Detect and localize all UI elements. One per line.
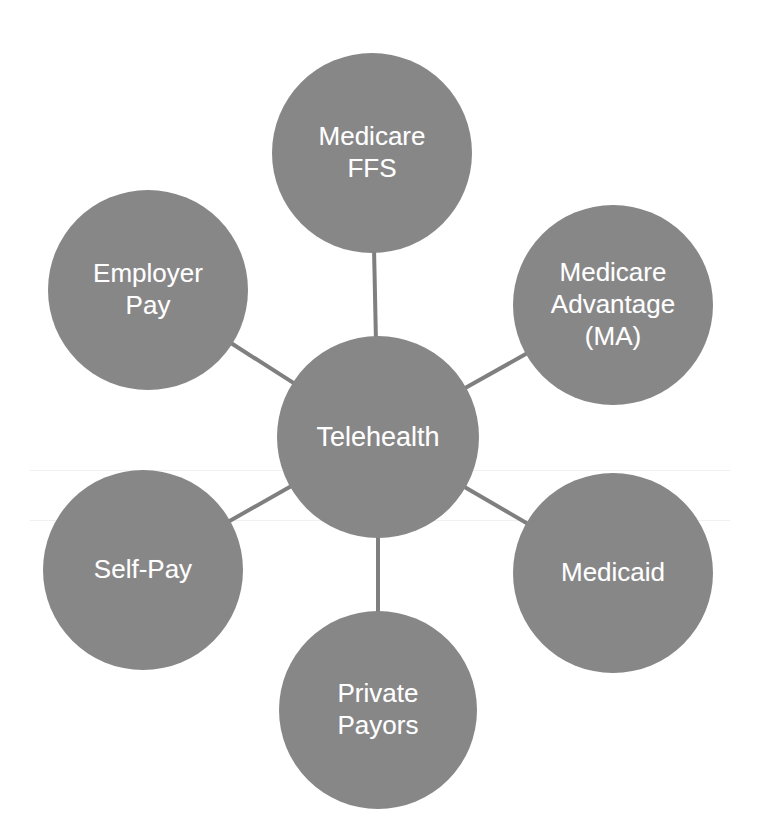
- node-medicare-advantage-label: Medicare Advantage (MA): [541, 257, 685, 352]
- node-medicare-ffs-label: Medicare FFS: [309, 121, 436, 184]
- node-employer-pay-label: Employer Pay: [83, 258, 213, 321]
- node-private-payors-label: Private Payors: [328, 678, 429, 741]
- node-self-pay-label: Self-Pay: [84, 554, 202, 586]
- connector-telehealth-to-self-pay: [228, 486, 292, 522]
- node-medicare-advantage[interactable]: Medicare Advantage (MA): [513, 205, 713, 405]
- node-telehealth[interactable]: Telehealth: [277, 336, 479, 538]
- node-medicaid[interactable]: Medicaid: [513, 473, 713, 673]
- node-telehealth-label: Telehealth: [306, 421, 449, 454]
- connector-telehealth-to-employer-pay: [231, 343, 295, 384]
- node-employer-pay[interactable]: Employer Pay: [48, 190, 248, 390]
- node-self-pay[interactable]: Self-Pay: [43, 470, 243, 670]
- connector-telehealth-to-medicaid: [464, 487, 528, 524]
- node-medicare-ffs[interactable]: Medicare FFS: [272, 53, 472, 253]
- node-medicaid-label: Medicaid: [551, 557, 675, 589]
- connector-telehealth-to-medicare-advantage: [464, 353, 527, 389]
- node-private-payors[interactable]: Private Payors: [279, 611, 477, 809]
- connector-telehealth-to-medicare-ffs: [374, 251, 376, 338]
- diagram-canvas: ​ ​ ​ ​ ​ Telehealth Medicare FFS Medica…: [0, 0, 757, 838]
